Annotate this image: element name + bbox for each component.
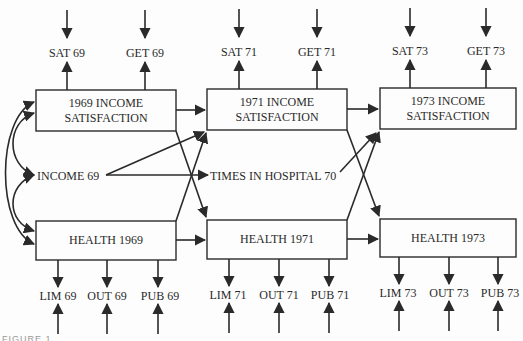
indicator-label: PUB 69	[141, 289, 179, 303]
indicator-label: LIM 69	[40, 289, 77, 303]
indicator-label: OUT 71	[259, 288, 298, 302]
bottom-indicators: LIM 69 OUT 69 PUB 69 LIM 71 OUT 71 PUB 7…	[40, 257, 520, 334]
box-label: 1973 INCOME	[411, 94, 485, 108]
indicator-label: GET 71	[298, 45, 336, 59]
income-69-label: INCOME 69	[37, 169, 99, 183]
box-health-1971: HEALTH 1971	[207, 220, 347, 259]
top-indicator-get69: GET 69	[126, 10, 164, 90]
indicator-label: SAT 69	[49, 46, 85, 60]
figure-caption: FIGURE 1	[2, 334, 52, 341]
indicator-label: GET 69	[126, 46, 164, 60]
path-arrow-icon	[340, 133, 376, 172]
box-label: SATISFACTION	[64, 111, 147, 125]
indicator-label: GET 73	[467, 44, 505, 58]
box-label: 1971 INCOME	[240, 95, 314, 109]
indicator-label: LIM 71	[210, 288, 247, 302]
indicator-label: LIM 73	[380, 286, 417, 300]
box-income-satisfaction-1971: 1971 INCOME SATISFACTION	[207, 89, 347, 130]
indicator-label: PUB 73	[481, 286, 519, 300]
box-income-satisfaction-1973: 1973 INCOME SATISFACTION	[380, 88, 516, 129]
indicator-label: SAT 73	[392, 44, 428, 58]
indicator-label: OUT 69	[87, 289, 126, 303]
box-label: HEALTH 1971	[240, 232, 314, 246]
box-label: SATISFACTION	[406, 109, 489, 123]
box-health-1969: HEALTH 1969	[36, 221, 176, 260]
box-label: 1969 INCOME	[69, 96, 143, 110]
box-income-satisfaction-1969: 1969 INCOME SATISFACTION	[36, 90, 176, 131]
indicator-label: PUB 71	[311, 288, 349, 302]
indicator-label: OUT 73	[429, 286, 468, 300]
top-indicator-sat71: SAT 71	[221, 9, 257, 89]
top-indicator-sat69: SAT 69	[49, 10, 85, 90]
box-label: SATISFACTION	[235, 110, 318, 124]
path-diagram: SAT 69 GET 69 SAT 71 GET 71 SAT 73 GET 7…	[0, 0, 523, 341]
box-label: HEALTH 1973	[411, 231, 485, 245]
top-indicator-sat73: SAT 73	[392, 8, 428, 88]
indicator-label: SAT 71	[221, 45, 257, 59]
box-health-1973: HEALTH 1973	[380, 219, 516, 257]
box-label: HEALTH 1969	[69, 233, 143, 247]
path-arrow-icon	[347, 132, 379, 220]
correlation-arrow-icon	[13, 175, 34, 231]
times-in-hospital-70-label: TIMES IN HOSPITAL 70	[210, 169, 336, 183]
top-indicator-get73: GET 73	[467, 8, 505, 88]
top-indicator-get71: GET 71	[298, 9, 336, 89]
